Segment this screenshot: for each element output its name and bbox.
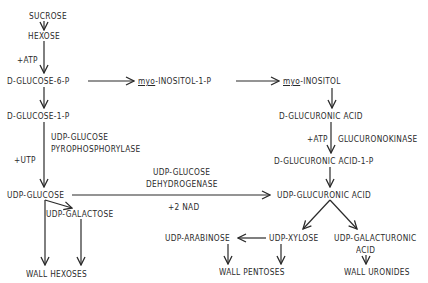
enzyme-glucuronokinase: GLUCURONOKINASE xyxy=(338,133,418,144)
node-glucose-6-p: D-GLUCOSE-6-P xyxy=(7,75,70,86)
enzyme-dehydrogenase-line1: UDP-GLUCOSE xyxy=(153,166,210,177)
enzyme-pyrophosphorylase-line1: UDP-GLUCOSE xyxy=(51,131,108,142)
node-udp-galacturonic-line1: UDP-GALACTURONIC xyxy=(334,232,417,243)
inositol-1-p-label: -INOSITOL-1-P xyxy=(155,75,211,86)
node-myo-inositol: myo-INOSITOL xyxy=(283,75,341,86)
node-glucose-1-p: D-GLUCOSE-1-P xyxy=(7,110,70,121)
node-hexose: HEXOSE xyxy=(28,30,60,41)
node-udp-galacturonic-line2: ACID xyxy=(356,244,375,255)
inositol-label: -INOSITOL xyxy=(300,75,340,86)
node-wall-pentoses: WALL PENTOSES xyxy=(219,266,285,277)
node-myo-inositol-1-p: myo-INOSITOL-1-P xyxy=(138,75,211,86)
node-wall-uronides: WALL URONIDES xyxy=(344,266,410,277)
myo-prefix: myo xyxy=(283,75,300,86)
node-wall-hexoses: WALL HEXOSES xyxy=(26,268,87,279)
cofactor-nad: +2 NAD xyxy=(168,201,200,212)
arrow-udpglucose-udpgalactose xyxy=(45,200,72,208)
node-d-glucuronic-acid: D-GLUCURONIC ACID xyxy=(279,110,363,121)
node-sucrose: SUCROSE xyxy=(29,10,67,21)
node-d-glucuronic-acid-1-p: D-GLUCURONIC ACID-1-P xyxy=(274,155,374,166)
arrow-udpglucuronic-udpxylose xyxy=(303,200,330,229)
node-udp-glucose: UDP-GLUCOSE xyxy=(7,189,64,200)
node-udp-galactose: UDP-GALACTOSE xyxy=(46,208,113,219)
arrow-udpglucuronic-udpgalacturonic xyxy=(330,200,357,229)
node-udp-glucuronic-acid: UDP-GLUCURONIC ACID xyxy=(277,189,371,200)
cofactor-utp: +UTP xyxy=(14,154,36,165)
enzyme-pyrophosphorylase-line2: PYROPHOSPHORYLASE xyxy=(51,143,141,154)
node-udp-xylose: UDP-XYLOSE xyxy=(269,232,319,243)
node-udp-arabinose: UDP-ARABINOSE xyxy=(165,232,230,243)
cofactor-atp-2: +ATP xyxy=(307,133,328,144)
enzyme-dehydrogenase-line2: DEHYDROGENASE xyxy=(146,178,218,189)
cofactor-atp-1: +ATP xyxy=(17,54,38,65)
myo-prefix: myo xyxy=(138,75,155,86)
